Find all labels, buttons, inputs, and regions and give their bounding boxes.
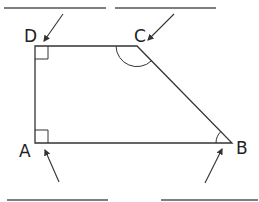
vertex-label-c: C	[134, 26, 146, 46]
trapezium-diagram: D C A B	[0, 0, 259, 202]
angle-arc-b	[216, 132, 221, 143]
arrow-a	[45, 150, 59, 182]
vertex-label-d: D	[24, 26, 37, 46]
trapezium-shape	[35, 46, 232, 143]
arrow-b	[205, 149, 222, 183]
vertex-label-a: A	[19, 141, 31, 161]
arrow-d	[44, 14, 63, 41]
angle-arc-c	[116, 46, 152, 67]
arrow-c	[148, 14, 174, 40]
vertex-label-b: B	[236, 138, 248, 158]
right-angle-marker-a	[35, 130, 48, 143]
right-angle-marker-d	[35, 46, 48, 59]
